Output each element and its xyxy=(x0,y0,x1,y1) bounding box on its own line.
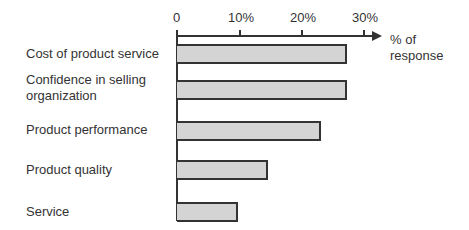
x-tick-mark xyxy=(301,30,303,36)
x-tick-0: 0 xyxy=(173,10,180,25)
bar-product-quality xyxy=(177,160,268,180)
x-tick-mark xyxy=(239,30,241,36)
category-label: Service xyxy=(26,204,69,219)
x-tick-30: 30% xyxy=(352,10,378,25)
x-axis-line xyxy=(177,35,373,37)
x-tick-mark xyxy=(363,30,365,36)
x-axis-label: % of response xyxy=(390,32,443,64)
x-axis-label-line1: % of xyxy=(390,32,443,48)
x-axis-arrow-icon xyxy=(372,31,382,41)
bar-service xyxy=(177,202,238,222)
category-label: Product performance xyxy=(26,122,147,137)
category-label: Cost of product service xyxy=(26,46,159,61)
category-label: Confidence in selling xyxy=(26,72,146,87)
category-label: organization xyxy=(26,88,97,103)
bar-product-performance xyxy=(177,121,321,141)
bar-confidence-in-selling-organization xyxy=(177,80,347,100)
x-tick-20: 20% xyxy=(290,10,316,25)
x-axis-label-line2: response xyxy=(390,48,443,64)
x-tick-10: 10% xyxy=(228,10,254,25)
bar-cost-of-product-service xyxy=(177,44,347,64)
category-label: Product quality xyxy=(26,162,112,177)
